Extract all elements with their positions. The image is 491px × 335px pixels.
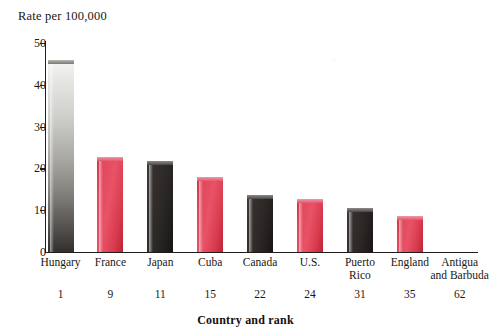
bar-hungary — [48, 64, 74, 252]
bar-u-s- — [297, 203, 323, 252]
bar-body — [48, 64, 74, 252]
bar-england — [397, 219, 423, 252]
bar-highlight — [349, 211, 353, 252]
bar-body — [297, 203, 323, 252]
bar-highlight — [50, 64, 54, 252]
bar-highlight — [399, 219, 403, 252]
bar-top-face — [97, 157, 123, 161]
bar-top-face — [48, 60, 74, 64]
bar-body — [147, 164, 173, 252]
x-axis-title: Country and rank — [0, 313, 491, 328]
bar-top-face — [197, 177, 223, 181]
bar-chart: Rate per 100,000 01020304050 Hungary1Fra… — [0, 0, 491, 335]
bar-puerto-rico — [347, 211, 373, 252]
bar-body — [247, 199, 273, 252]
bar-body — [397, 219, 423, 252]
bar-top-face — [347, 208, 373, 212]
bar-body — [197, 181, 223, 252]
bar-top-face — [397, 216, 423, 220]
bar-body — [347, 211, 373, 252]
bar-highlight — [199, 181, 203, 252]
bar-top-face — [297, 199, 323, 203]
bar-highlight — [149, 164, 153, 252]
category-label-line: Antigua — [416, 256, 491, 269]
bar-japan — [147, 164, 173, 252]
category-label-line: Rico — [316, 269, 404, 282]
bar-canada — [247, 199, 273, 252]
bar-france — [97, 160, 123, 252]
bar-highlight — [99, 160, 103, 252]
bar-highlight — [299, 203, 303, 252]
category-label-line: and Barbuda — [416, 269, 491, 282]
bar-body — [97, 160, 123, 252]
category-label-antigua-and-barbuda: Antiguaand Barbuda — [416, 256, 491, 282]
bar-highlight — [249, 199, 253, 252]
bar-top-face — [147, 161, 173, 165]
bar-cuba — [197, 181, 223, 252]
rank-label-antigua-and-barbuda: 62 — [430, 288, 490, 301]
bars-layer — [0, 0, 491, 335]
bar-top-face — [247, 195, 273, 199]
